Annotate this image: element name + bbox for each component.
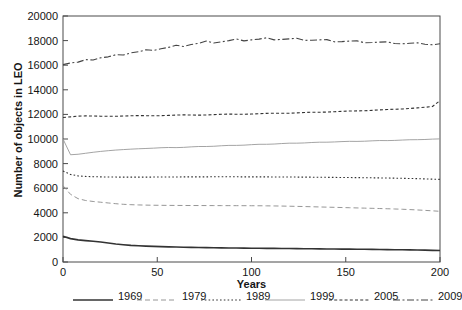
y-axis-tick-label: 6000 bbox=[10, 183, 58, 193]
series-line-2005 bbox=[63, 101, 440, 118]
y-axis-tick-label: 2000 bbox=[10, 232, 58, 242]
series-line-1999 bbox=[63, 139, 440, 155]
y-axis-tick-label: 8000 bbox=[10, 159, 58, 169]
x-axis-tick-label: 100 bbox=[232, 266, 272, 278]
series-line-1979 bbox=[63, 186, 440, 212]
x-axis-tick-label: 0 bbox=[43, 266, 83, 278]
series-line-1969 bbox=[63, 236, 440, 250]
legend-item-1969[interactable]: 1969 bbox=[73, 288, 142, 304]
series-line-1989 bbox=[63, 171, 440, 179]
y-axis-tick-label: 12000 bbox=[10, 109, 58, 119]
plot-frame bbox=[63, 16, 440, 262]
legend-item-1979[interactable]: 1979 bbox=[137, 288, 206, 304]
series-line-2009 bbox=[63, 38, 440, 65]
legend-label-2009: 2009 bbox=[438, 288, 462, 304]
y-axis-tick-label: 10000 bbox=[10, 134, 58, 144]
y-axis-tick-label: 4000 bbox=[10, 208, 58, 218]
legend-item-1989[interactable]: 1989 bbox=[201, 288, 270, 304]
x-axis-tick-label: 50 bbox=[137, 266, 177, 278]
y-axis-tick-label: 14000 bbox=[10, 85, 58, 95]
y-axis-tick-label: 20000 bbox=[10, 11, 58, 21]
chart-legend: 196919791989199920052009 bbox=[0, 288, 457, 308]
legend-item-2009[interactable]: 2009 bbox=[393, 288, 462, 304]
y-axis-tick-label: 16000 bbox=[10, 60, 58, 70]
y-axis-tick-labels: 0200040006000800010000120001400016000180… bbox=[6, 0, 58, 262]
y-axis-tick-label: 18000 bbox=[10, 36, 58, 46]
x-axis-tick-label: 200 bbox=[420, 266, 460, 278]
legend-item-1999[interactable]: 1999 bbox=[265, 288, 334, 304]
legend-item-2005[interactable]: 2005 bbox=[329, 288, 398, 304]
x-axis-tick-label: 150 bbox=[326, 266, 366, 278]
